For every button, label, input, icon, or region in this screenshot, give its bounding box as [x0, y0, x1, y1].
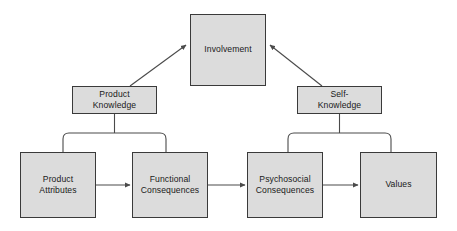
node-self-knowledge: Self- Knowledge [297, 86, 382, 114]
node-involvement: Involvement [190, 14, 266, 86]
node-product-knowledge: Product Knowledge [72, 86, 157, 114]
bracket-product-knowledge [63, 114, 166, 152]
connector-self-knowledge-to-involvement [270, 45, 322, 86]
node-product-attributes: Product Attributes [20, 152, 96, 218]
node-functional-consequences: Functional Consequences [132, 152, 208, 218]
bracket-self-knowledge [288, 114, 391, 152]
connector-product-knowledge-to-involvement [130, 45, 186, 86]
node-psychosocial-consequences: Psychosocial Consequences [247, 152, 323, 218]
node-values: Values [360, 152, 437, 218]
diagram-canvas: Involvement Product Knowledge Self- Know… [0, 0, 457, 231]
